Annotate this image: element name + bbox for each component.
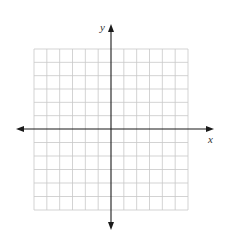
axes (16, 24, 214, 230)
x-axis-label: x (207, 133, 213, 145)
y-axis-label: y (99, 21, 105, 33)
coordinate-plane: x y (0, 0, 226, 243)
y-axis-bottom-arrow-icon (108, 222, 114, 230)
y-axis-top-arrow-icon (108, 24, 114, 32)
x-axis-right-arrow-icon (206, 126, 214, 132)
x-axis-left-arrow-icon (16, 126, 24, 132)
